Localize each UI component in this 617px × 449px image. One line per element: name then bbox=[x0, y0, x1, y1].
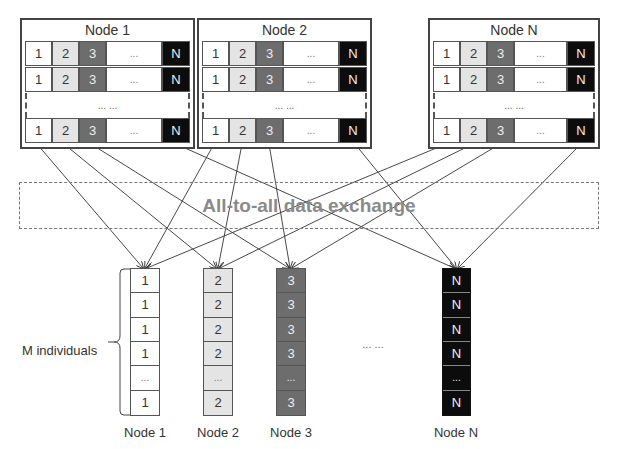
slot-n: N bbox=[162, 67, 190, 92]
individual-cell: 3 bbox=[277, 391, 305, 415]
bottom-node-label: Node 1 bbox=[115, 425, 175, 440]
data-row: 1 2 3 ... N bbox=[25, 41, 190, 66]
top-node-title: Node N bbox=[430, 22, 598, 38]
individual-cell: N bbox=[443, 391, 470, 415]
slot-ellipsis: ... bbox=[514, 41, 567, 66]
individual-cell: 1 bbox=[131, 293, 159, 317]
slot-1: 1 bbox=[202, 118, 229, 143]
slot-ellipsis: ... bbox=[106, 67, 162, 92]
data-row: 1 2 3 ... N bbox=[433, 67, 595, 92]
slot-ellipsis: ... bbox=[283, 67, 339, 92]
slot-3: 3 bbox=[487, 67, 514, 92]
top-node-title: Node 2 bbox=[199, 22, 370, 38]
m-individuals-label: M individuals bbox=[22, 343, 112, 358]
individual-cell: 2 bbox=[204, 342, 232, 366]
slot-n: N bbox=[162, 41, 190, 66]
data-row: 1 2 3 ... N bbox=[25, 67, 190, 92]
slot-2: 2 bbox=[460, 67, 487, 92]
slot-1: 1 bbox=[433, 41, 460, 66]
data-row: 1 2 3 ... N bbox=[433, 118, 595, 143]
slot-2: 2 bbox=[229, 41, 256, 66]
individual-cell-ellipsis: ... bbox=[131, 366, 159, 390]
individual-cell-ellipsis: ... bbox=[204, 366, 232, 390]
slot-2: 2 bbox=[52, 41, 79, 66]
slot-ellipsis: ... bbox=[514, 118, 567, 143]
individual-cell: N bbox=[443, 342, 470, 366]
slot-2: 2 bbox=[52, 118, 79, 143]
exchange-label: All-to-all data exchange bbox=[202, 195, 415, 217]
rows-gap: ... ... bbox=[25, 93, 190, 118]
individual-cell: 3 bbox=[277, 269, 305, 293]
individual-cell: N bbox=[443, 318, 470, 342]
slot-3: 3 bbox=[256, 67, 283, 92]
slot-2: 2 bbox=[229, 118, 256, 143]
individual-cell: 2 bbox=[204, 318, 232, 342]
slot-1: 1 bbox=[25, 67, 52, 92]
bottom-node-label: Node N bbox=[426, 425, 486, 440]
individual-cell-ellipsis: ... bbox=[443, 366, 470, 390]
slot-ellipsis: ... bbox=[283, 41, 339, 66]
slot-2: 2 bbox=[460, 41, 487, 66]
slot-3: 3 bbox=[487, 118, 514, 143]
columns-ellipsis: ... ... bbox=[348, 338, 398, 350]
slot-1: 1 bbox=[25, 118, 52, 143]
individual-cell: N bbox=[443, 269, 470, 293]
slot-1: 1 bbox=[202, 67, 229, 92]
top-node-n: Node N 1 2 3 ... N 1 2 3 ... N ... ... 1… bbox=[428, 18, 600, 149]
top-node-title: Node 1 bbox=[22, 22, 193, 38]
rows-gap: ... ... bbox=[433, 93, 595, 118]
individual-cell: 1 bbox=[131, 318, 159, 342]
slot-n: N bbox=[567, 41, 595, 66]
slot-1: 1 bbox=[202, 41, 229, 66]
data-row: 1 2 3 ... N bbox=[433, 41, 595, 66]
bottom-column-node-3: 3 3 3 3 ... 3 bbox=[276, 268, 306, 416]
individual-cell-ellipsis: ... bbox=[277, 366, 305, 390]
all-to-all-exchange-region: All-to-all data exchange bbox=[19, 182, 599, 229]
slot-ellipsis: ... bbox=[283, 118, 339, 143]
individual-cell: 2 bbox=[204, 391, 232, 415]
slot-n: N bbox=[339, 118, 367, 143]
top-node-2: Node 2 1 2 3 ... N 1 2 3 ... N ... ... 1… bbox=[197, 18, 372, 149]
slot-ellipsis: ... bbox=[514, 67, 567, 92]
bottom-column-node-n: N N N N ... N bbox=[442, 268, 471, 416]
slot-2: 2 bbox=[460, 118, 487, 143]
slot-n: N bbox=[567, 118, 595, 143]
slot-2: 2 bbox=[229, 67, 256, 92]
individual-cell: 3 bbox=[277, 318, 305, 342]
bottom-node-label: Node 3 bbox=[261, 425, 321, 440]
individual-cell: 3 bbox=[277, 293, 305, 317]
slot-n: N bbox=[339, 41, 367, 66]
individual-cell: 1 bbox=[131, 391, 159, 415]
data-row: 1 2 3 ... N bbox=[202, 67, 367, 92]
slot-3: 3 bbox=[79, 41, 106, 66]
slot-3: 3 bbox=[79, 118, 106, 143]
slot-3: 3 bbox=[79, 67, 106, 92]
slot-n: N bbox=[339, 67, 367, 92]
slot-3: 3 bbox=[487, 41, 514, 66]
individual-cell: 1 bbox=[131, 269, 159, 293]
bottom-column-node-1: 1 1 1 1 ... 1 bbox=[130, 268, 160, 416]
individual-cell: 2 bbox=[204, 293, 232, 317]
slot-n: N bbox=[567, 67, 595, 92]
slot-3: 3 bbox=[256, 118, 283, 143]
data-row: 1 2 3 ... N bbox=[202, 41, 367, 66]
individual-cell: 3 bbox=[277, 342, 305, 366]
data-row: 1 2 3 ... N bbox=[202, 118, 367, 143]
top-node-1: Node 1 1 2 3 ... N 1 2 3 ... N ... ... 1… bbox=[20, 18, 195, 149]
slot-n: N bbox=[162, 118, 190, 143]
slot-2: 2 bbox=[52, 67, 79, 92]
slot-3: 3 bbox=[256, 41, 283, 66]
slot-ellipsis: ... bbox=[106, 41, 162, 66]
bottom-column-node-2: 2 2 2 2 ... 2 bbox=[203, 268, 233, 416]
data-row: 1 2 3 ... N bbox=[25, 118, 190, 143]
individual-cell: 2 bbox=[204, 269, 232, 293]
individual-cell: 1 bbox=[131, 342, 159, 366]
slot-1: 1 bbox=[433, 118, 460, 143]
brace-icon bbox=[106, 268, 132, 416]
individual-cell: N bbox=[443, 293, 470, 317]
slot-ellipsis: ... bbox=[106, 118, 162, 143]
slot-1: 1 bbox=[25, 41, 52, 66]
slot-1: 1 bbox=[433, 67, 460, 92]
rows-gap: ... ... bbox=[202, 93, 367, 118]
bottom-node-label: Node 2 bbox=[188, 425, 248, 440]
